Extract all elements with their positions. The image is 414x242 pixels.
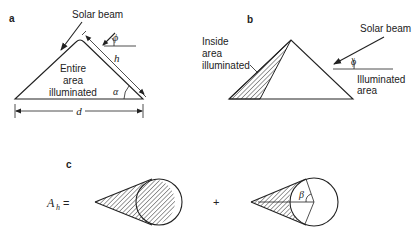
ah-subscript: h — [56, 203, 60, 212]
inside-text-line2: area — [202, 48, 222, 59]
region-text-line3: illuminated — [49, 87, 97, 98]
panel-c: c A h = + β — [46, 159, 338, 226]
panel-a: a Solar beam ϕ Entire area illuminated α… — [9, 9, 146, 118]
inside-text-line3: illuminated — [202, 60, 250, 71]
alpha-angle-arc — [124, 86, 129, 99]
solar-beam-label-b: Solar beam — [360, 23, 411, 34]
radius-top — [306, 179, 314, 202]
ah-symbol: A — [46, 196, 55, 210]
beta-angle-arc — [306, 194, 311, 202]
inside-leader-line — [250, 65, 258, 73]
illuminated-text-line1: Illuminated — [357, 74, 405, 85]
radius-bottom — [305, 202, 314, 224]
panel-c-label: c — [66, 159, 72, 170]
region-text-line1: Entire — [60, 63, 87, 74]
d-symbol: d — [76, 105, 82, 117]
region-text-line2: area — [63, 75, 83, 86]
h-tick-bottom — [141, 92, 146, 97]
phi-symbol: ϕ — [113, 32, 118, 43]
equals-sign: = — [63, 197, 69, 209]
panel-b-label: b — [247, 14, 253, 25]
h-symbol: h — [114, 52, 120, 64]
alpha-symbol: α — [113, 86, 119, 97]
solar-illumination-diagram: a Solar beam ϕ Entire area illuminated α… — [0, 0, 414, 242]
inside-text-line1: Inside — [202, 36, 229, 47]
panel-a-label: a — [9, 13, 15, 24]
plus-sign: + — [213, 196, 219, 208]
solar-beam-arrow-b-icon — [334, 37, 384, 64]
h-tick-top — [82, 31, 86, 35]
illuminated-text-line2: area — [357, 85, 377, 96]
phi-symbol-b: ϕ — [351, 56, 356, 67]
solar-beam-label-a: Solar beam — [72, 9, 123, 20]
panel-b: b Inside area illuminated Solar beam ϕ I… — [202, 14, 411, 99]
beta-symbol: β — [298, 189, 304, 200]
